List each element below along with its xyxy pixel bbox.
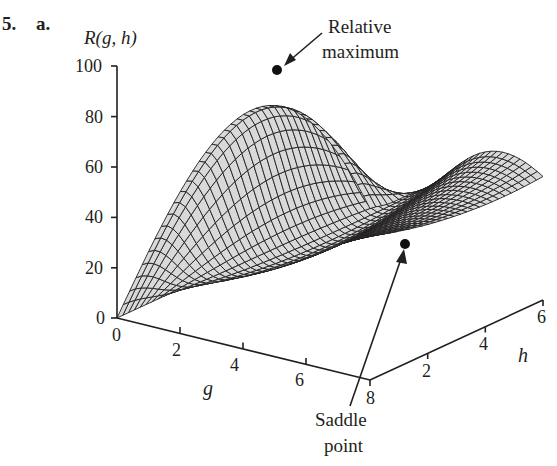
max-arrowhead-icon (284, 53, 296, 66)
z-tick-label: 100 (75, 57, 102, 75)
saddle-point (400, 239, 410, 249)
z-tick-label: 40 (85, 208, 103, 226)
h-tick-label: 2 (422, 362, 431, 380)
saddle-arrowhead-icon (396, 249, 407, 264)
g-axis-name: g (203, 378, 213, 398)
z-axis-title: R(g, h) (84, 28, 137, 47)
z-tick-label: 0 (96, 309, 105, 327)
h-tick-label: 6 (537, 308, 546, 326)
g-tick-label: 8 (366, 389, 375, 407)
h-axis-line (370, 300, 543, 380)
max-label-line1: Relative (328, 17, 391, 36)
surface-mesh (117, 106, 543, 319)
h-tick-label: 4 (479, 335, 488, 353)
h-axis-name: h (518, 345, 528, 365)
max-label-line2: maximum (322, 42, 399, 61)
saddle-label-line2: point (324, 436, 363, 455)
z-tick-label: 80 (85, 108, 103, 126)
g-tick-label: 2 (172, 341, 181, 359)
z-tick-label: 20 (85, 259, 103, 277)
g-tick-label: 6 (295, 371, 304, 389)
relative-maximum-point (272, 65, 282, 75)
z-tick-label: 60 (85, 158, 103, 176)
saddle-label-line1: Saddle (315, 410, 367, 429)
g-tick-label: 0 (112, 326, 121, 344)
g-tick-label: 4 (230, 356, 239, 374)
problem-part: a. (36, 14, 50, 33)
problem-number: 5. (2, 14, 16, 33)
saddle-arrow-line (350, 256, 402, 406)
